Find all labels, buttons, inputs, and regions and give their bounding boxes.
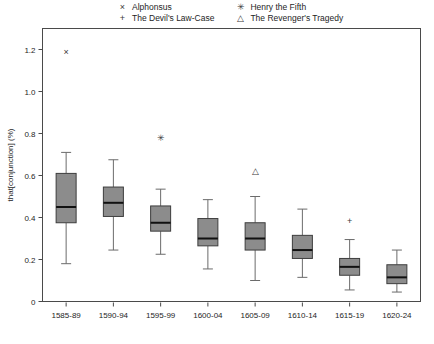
box-body (151, 206, 171, 231)
y-tick-label: 0.6 (24, 172, 36, 181)
plot-frame (43, 29, 421, 302)
x-tick-label: 1605-09 (240, 311, 270, 320)
y-tick-label: 1.0 (24, 88, 36, 97)
y-axis-label: that[conjunction] (%) (6, 128, 15, 201)
box-1610-14 (292, 209, 312, 277)
y-tick-label: 0.4 (24, 214, 36, 223)
y-tick-label: 0.2 (24, 256, 36, 265)
box-1620-24 (387, 250, 407, 292)
x-tick-label: 1615-19 (335, 311, 365, 320)
box-1600-04 (198, 200, 218, 269)
x-tick-label: 1585-89 (51, 311, 81, 320)
x-tick-label: 1620-24 (382, 311, 412, 320)
box-1605-09 (245, 197, 265, 281)
box-body (387, 265, 407, 284)
boxplot-chart: ×Alphonsus✳Henry the Fifth+The Devil's L… (0, 0, 434, 344)
x-tick-label: 1600-04 (193, 311, 223, 320)
outlier-cross-x-icon: × (63, 47, 68, 57)
box-1595-99 (151, 189, 171, 254)
box-1585-89 (56, 152, 76, 263)
x-tick-label: 1610-14 (288, 311, 318, 320)
box-body (292, 235, 312, 258)
box-body (245, 223, 265, 250)
outlier-triangle-up-icon: △ (252, 166, 259, 176)
y-tick-label: 0 (31, 298, 36, 307)
plot-area: 00.20.40.60.81.01.2that[conjunction] (%)… (0, 0, 434, 344)
y-tick-label: 1.2 (24, 46, 36, 55)
box-body (56, 173, 76, 222)
box-body (198, 219, 218, 246)
box-body (103, 187, 123, 216)
outlier-plus-icon: + (347, 216, 352, 226)
x-tick-label: 1595-99 (146, 311, 176, 320)
outlier-asterisk-icon: ✳ (157, 133, 165, 143)
box-1590-94 (103, 160, 123, 250)
box-1615-19 (340, 240, 360, 290)
y-tick-label: 0.8 (24, 130, 36, 139)
x-tick-label: 1590-94 (99, 311, 129, 320)
